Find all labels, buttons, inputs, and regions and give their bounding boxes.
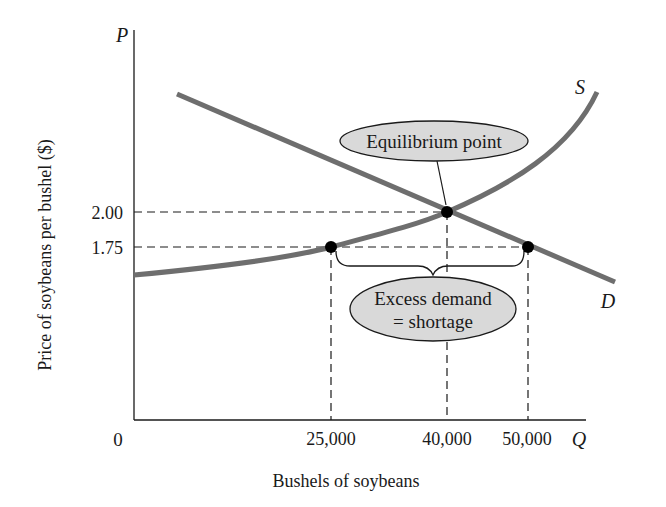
x-axis-symbol: Q bbox=[572, 428, 587, 450]
point-qd-175 bbox=[522, 241, 534, 253]
supply-demand-chart: Equilibrium point Excess demand = shorta… bbox=[0, 0, 666, 507]
equilibrium-leader bbox=[437, 161, 446, 205]
origin-label: 0 bbox=[113, 429, 123, 450]
point-qs-175 bbox=[325, 241, 337, 253]
x-tick-40000: 40,000 bbox=[422, 429, 472, 449]
demand-label: D bbox=[600, 290, 616, 312]
y-tick-1-75: 1.75 bbox=[92, 238, 124, 258]
point-equilibrium bbox=[441, 206, 453, 218]
x-tick-25000: 25,000 bbox=[306, 429, 356, 449]
equilibrium-callout-text: Equilibrium point bbox=[366, 131, 502, 152]
y-tick-2-00: 2.00 bbox=[92, 203, 124, 223]
shortage-callout-line2: = shortage bbox=[393, 311, 473, 332]
y-axis-title: Price of soybeans per bushel ($) bbox=[35, 139, 56, 370]
x-tick-50000: 50,000 bbox=[502, 429, 552, 449]
y-axis-symbol: P bbox=[115, 24, 128, 46]
shortage-callout-line1: Excess demand bbox=[374, 288, 492, 309]
supply-label: S bbox=[575, 76, 585, 98]
shortage-brace bbox=[336, 251, 524, 275]
x-axis-title: Bushels of soybeans bbox=[273, 471, 420, 491]
